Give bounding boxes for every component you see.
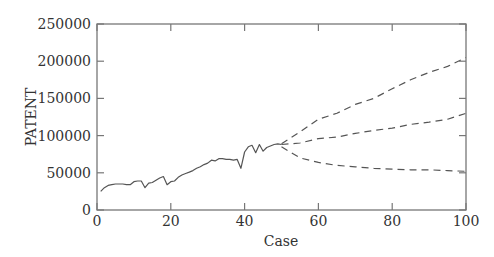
y-tick-label: 100000	[38, 128, 91, 144]
y-tick-label: 150000	[38, 90, 91, 106]
x-tick-label: 40	[236, 213, 254, 229]
plot-area	[101, 58, 466, 192]
series-line	[282, 58, 467, 144]
y-tick-label: 250000	[38, 16, 91, 32]
y-tick-label: 50000	[46, 165, 91, 181]
series-line	[101, 144, 282, 192]
x-tick-label: 20	[162, 213, 180, 229]
series-line	[282, 147, 467, 172]
x-tick-label: 80	[383, 213, 401, 229]
x-axis-title: Case	[264, 233, 299, 249]
x-tick-label: 100	[453, 213, 480, 229]
axes: 0204060801000500001000001500002000002500…	[38, 16, 480, 229]
x-tick-label: 0	[93, 213, 102, 229]
y-axis-title: PATENT	[23, 87, 39, 146]
y-tick-label: 200000	[38, 53, 91, 69]
line-chart: 0204060801000500001000001500002000002500…	[0, 0, 494, 257]
y-tick-label: 0	[82, 202, 91, 218]
series-line	[282, 113, 467, 144]
x-tick-label: 60	[309, 213, 327, 229]
